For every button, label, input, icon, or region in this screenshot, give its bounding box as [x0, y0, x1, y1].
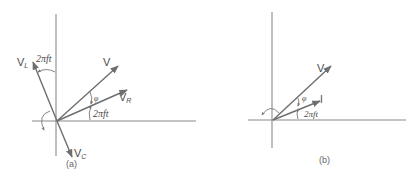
vector-vc-a — [57, 121, 72, 157]
arc-phi-a — [90, 92, 92, 104]
label-vr-a: VR — [119, 91, 131, 104]
label-i-b: I — [320, 94, 323, 105]
label-v-b: V — [317, 62, 325, 74]
rotation-arrow-b — [262, 108, 279, 115]
label-wt-right-a: 2πft — [93, 108, 109, 119]
panel-b: V I φ 2πft (b) — [248, 12, 406, 165]
panel-a: V VR VL VC φ 2πft 2πft (a) — [17, 14, 196, 169]
label-wt-b: 2πft — [304, 109, 319, 119]
label-phi-b: φ — [302, 94, 307, 103]
arc-wt-b — [297, 109, 298, 119]
vector-vr-a — [57, 90, 127, 121]
phasor-diagram: V VR VL VC φ 2πft 2πft (a) V I φ 2πft (b… — [0, 0, 420, 182]
label-wt-top-a: 2πft — [36, 53, 52, 64]
caption-b: (b) — [319, 155, 330, 165]
label-vl-a: VL — [17, 56, 28, 69]
vector-v-b — [273, 66, 331, 120]
label-v-a: V — [103, 56, 111, 68]
vector-v-a — [57, 66, 118, 121]
label-phi-a: φ — [94, 94, 99, 103]
caption-a: (a) — [66, 159, 77, 169]
arc-wt-top-a — [38, 70, 55, 73]
arc-wt-right-a — [89, 106, 91, 120]
